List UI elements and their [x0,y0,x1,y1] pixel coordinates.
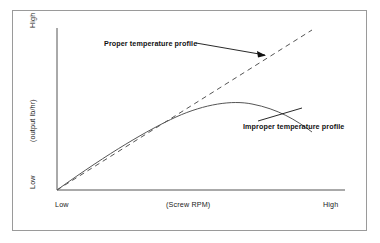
y-axis-title: (output lb/hr) [28,99,37,142]
x-axis-title: (Screw RPM) [166,200,210,209]
y-axis-low-label: Low [28,175,37,189]
annotation-proper-temperature-profile: Proper temperature profile [104,39,197,48]
y-axis-high-label: High [28,13,37,28]
annotation-improper-temperature-profile: Improper temperature profile [243,122,344,131]
x-axis-high-label: High [323,200,338,209]
figure-root: High (output lb/hr) Low Low (Screw RPM) … [0,0,380,243]
improper-label-leader-line [258,108,302,121]
series-improper-temperature-profile [57,103,312,190]
proper-label-leader-arrow [196,43,266,58]
x-axis-low-label: Low [55,200,69,209]
